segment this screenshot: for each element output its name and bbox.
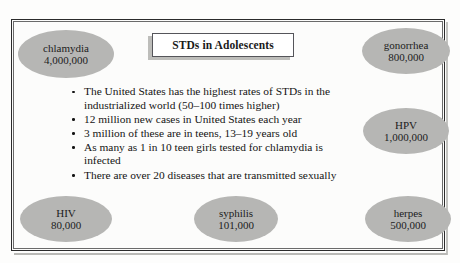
list-item-text: There are over 20 diseases that are tran… bbox=[84, 169, 336, 181]
list-item: There are over 20 diseases that are tran… bbox=[70, 169, 350, 183]
scanned-page: STDs in Adolescents The United States ha… bbox=[0, 0, 460, 263]
list-item: The United States has the highest rates … bbox=[70, 85, 350, 112]
std-ellipse-hpv: HPV 1,000,000 bbox=[363, 108, 449, 154]
bullet-dot-icon bbox=[72, 118, 75, 121]
list-item-text: 3 million of these are in teens, 13–19 y… bbox=[84, 127, 297, 139]
fact-list: The United States has the highest rates … bbox=[70, 85, 350, 183]
bullet-dot-icon bbox=[72, 132, 75, 135]
std-ellipse-herpes: herpes 500,000 bbox=[365, 196, 451, 242]
bullet-dot-icon bbox=[72, 174, 75, 177]
std-name: HIV bbox=[56, 207, 76, 219]
std-name: syphilis bbox=[219, 207, 253, 219]
std-ellipse-gonorrhea: gonorrhea 800,000 bbox=[362, 28, 450, 74]
bullet-dot-icon bbox=[72, 91, 75, 94]
std-value: 800,000 bbox=[388, 51, 424, 63]
page-title: STDs in Adolescents bbox=[172, 39, 274, 51]
list-item-text: 12 million new cases in United States ea… bbox=[84, 113, 302, 125]
list-item: As many as 1 in 10 teen girls tested for… bbox=[70, 141, 350, 168]
list-item-text: As many as 1 in 10 teen girls tested for… bbox=[84, 141, 323, 167]
list-item: 3 million of these are in teens, 13–19 y… bbox=[70, 127, 350, 141]
std-ellipse-hiv: HIV 80,000 bbox=[20, 196, 112, 242]
std-value: 500,000 bbox=[390, 219, 426, 231]
list-item: 12 million new cases in United States ea… bbox=[70, 113, 350, 127]
bullet-dot-icon bbox=[72, 146, 75, 149]
std-ellipse-syphilis: syphilis 101,000 bbox=[194, 196, 278, 242]
std-name: herpes bbox=[394, 207, 423, 219]
std-ellipse-chlamydia: chlamydia 4,000,000 bbox=[18, 30, 114, 78]
std-name: chlamydia bbox=[43, 42, 89, 54]
std-value: 101,000 bbox=[218, 219, 254, 231]
title-box: STDs in Adolescents bbox=[152, 33, 294, 57]
std-value: 1,000,000 bbox=[384, 131, 428, 143]
std-value: 4,000,000 bbox=[44, 54, 88, 66]
std-name: gonorrhea bbox=[384, 39, 429, 51]
frame-shadow-bottom bbox=[14, 253, 447, 255]
list-item-text: The United States has the highest rates … bbox=[84, 85, 330, 111]
std-value: 80,000 bbox=[51, 219, 81, 231]
std-name: HPV bbox=[395, 119, 417, 131]
